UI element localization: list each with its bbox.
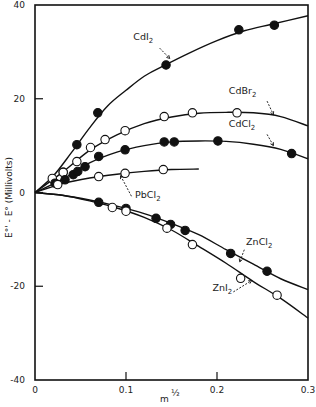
label-cdbr2: CdBr2 bbox=[229, 85, 257, 99]
x-axis-title: m bbox=[160, 394, 169, 404]
marker-cdcl2 bbox=[214, 137, 222, 145]
marker-zni2 bbox=[122, 207, 130, 215]
x-tick-label: 0.3 bbox=[301, 385, 315, 395]
marker-cdi2 bbox=[235, 26, 243, 34]
marker-cdcl2 bbox=[160, 138, 168, 146]
x-tick-label: 0.2 bbox=[210, 385, 224, 395]
label-cdcl2: CdCl2 bbox=[229, 118, 255, 132]
marker-cdcl2 bbox=[170, 138, 178, 146]
y-tick-label: -20 bbox=[10, 281, 25, 291]
marker-cdbr2 bbox=[73, 157, 81, 165]
marker-cdcl2 bbox=[121, 146, 129, 154]
y-tick-label: 20 bbox=[14, 94, 26, 104]
marker-cdi2 bbox=[270, 21, 278, 29]
marker-pbcl2 bbox=[95, 172, 103, 180]
marker-cdi2 bbox=[162, 61, 170, 69]
marker-pbcl2 bbox=[159, 165, 167, 173]
label-cdi2: CdI2 bbox=[133, 31, 153, 45]
y-axis-title: E°' - E° (Millivolts) bbox=[4, 157, 14, 238]
label-pointer bbox=[267, 134, 273, 145]
x-tick-label: 0 bbox=[32, 385, 38, 395]
marker-zni2 bbox=[273, 291, 281, 299]
ticks: 00.10.20.3-40-2002040 bbox=[10, 0, 315, 395]
marker-pbcl2 bbox=[54, 180, 62, 188]
marker-cdbr2 bbox=[233, 109, 241, 117]
marker-cdi2 bbox=[94, 109, 102, 117]
label-zni2: ZnI2 bbox=[212, 282, 232, 296]
label-zncl2: ZnCl2 bbox=[246, 236, 272, 250]
marker-zni2 bbox=[163, 224, 171, 232]
marker-cdcl2 bbox=[287, 149, 295, 157]
data-markers bbox=[48, 21, 296, 299]
marker-cdbr2 bbox=[121, 126, 129, 134]
marker-cdbr2 bbox=[101, 135, 109, 143]
series-labels: CdI2CdBr2CdCl2PbCl2ZnCl2ZnI2 bbox=[120, 31, 273, 296]
marker-zni2 bbox=[108, 203, 116, 211]
marker-cdbr2 bbox=[86, 143, 94, 151]
marker-cdbr2 bbox=[160, 112, 168, 120]
label-pointer bbox=[160, 48, 170, 58]
marker-zncl2 bbox=[181, 226, 189, 234]
marker-zni2 bbox=[236, 274, 244, 282]
marker-cdcl2 bbox=[81, 163, 89, 171]
y-tick-label: 40 bbox=[14, 0, 26, 10]
marker-cdi2 bbox=[73, 140, 81, 148]
label-pointer bbox=[121, 176, 132, 197]
marker-zncl2 bbox=[152, 214, 160, 222]
curve-zni2 bbox=[35, 193, 308, 319]
marker-zncl2 bbox=[226, 249, 234, 257]
marker-cdbr2 bbox=[188, 109, 196, 117]
chart: CdI2CdBr2CdCl2PbCl2ZnCl2ZnI2 00.10.20.3-… bbox=[0, 0, 316, 407]
label-pointer bbox=[267, 101, 273, 115]
marker-zni2 bbox=[188, 240, 196, 248]
marker-zncl2 bbox=[95, 198, 103, 206]
x-axis-title-exponent: ½ bbox=[171, 388, 180, 398]
x-tick-label: 0.1 bbox=[119, 385, 133, 395]
marker-cdcl2 bbox=[95, 152, 103, 160]
y-tick-label: 0 bbox=[19, 188, 25, 198]
label-pbcl2: PbCl2 bbox=[135, 189, 161, 203]
y-tick-label: -40 bbox=[10, 375, 25, 385]
marker-zncl2 bbox=[263, 267, 271, 275]
